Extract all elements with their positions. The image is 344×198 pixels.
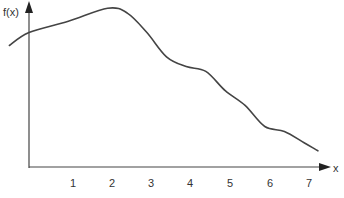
x-tick-labels: 1 2 3 4 5 6 7 — [70, 177, 312, 189]
x-tick-2: 2 — [109, 177, 115, 189]
x-axis-label: x — [333, 162, 339, 174]
x-tick-7: 7 — [306, 177, 312, 189]
function-plot: f(x) x 1 2 3 4 5 6 7 — [0, 0, 344, 198]
x-tick-5: 5 — [227, 177, 233, 189]
y-axis-label: f(x) — [3, 6, 19, 18]
y-axis-arrow-icon — [25, 1, 33, 13]
x-tick-4: 4 — [187, 177, 193, 189]
x-tick-3: 3 — [148, 177, 154, 189]
x-tick-6: 6 — [267, 177, 273, 189]
x-tick-1: 1 — [70, 177, 76, 189]
function-curve — [9, 8, 318, 151]
x-axis-arrow-icon — [319, 163, 331, 171]
